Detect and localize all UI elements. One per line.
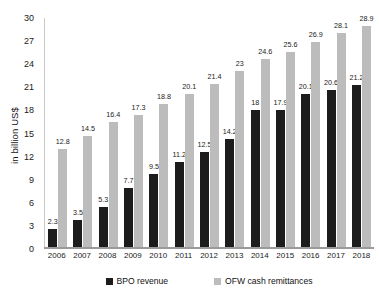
bar-value-label: 3.5 (73, 209, 83, 216)
bar-group: 2.312.8 (45, 18, 70, 247)
y-axis-tick: 18 (0, 106, 34, 115)
bar-value-label: 14.5 (81, 125, 95, 132)
y-axis-tick: 27 (0, 37, 34, 46)
y-axis-tick: 24 (0, 60, 34, 69)
bar-value-label: 18 (251, 99, 259, 106)
y-axis-tick: 30 (0, 14, 34, 23)
bar-bpo-revenue[interactable]: 3.5 (73, 220, 82, 247)
bar-value-label: 28.1 (334, 22, 348, 29)
x-axis-tick: 2007 (69, 252, 94, 260)
chart-legend: BPO revenueOFW cash remittances (44, 277, 374, 286)
bar-value-label: 24.6 (258, 48, 272, 55)
bar-bpo-revenue[interactable]: 18 (251, 110, 260, 247)
bar-value-label: 21.4 (208, 73, 222, 80)
plot-area: 2.312.83.514.55.316.47.717.39.518.811.22… (44, 18, 374, 249)
y-axis-tick: 21 (0, 83, 34, 92)
x-axis-tick: 2016 (298, 252, 323, 260)
bar-value-label: 26.9 (309, 31, 323, 38)
bar-ofw-remittances[interactable]: 23 (235, 71, 244, 247)
bar-value-label: 2.3 (48, 218, 58, 225)
bar-chart: in billion US$ 036912151821242730 2.312.… (0, 0, 379, 300)
legend-item-ofw-remittances[interactable]: OFW cash remittances (214, 277, 312, 286)
bar-bpo-revenue[interactable]: 17.9 (276, 110, 285, 247)
legend-item-bpo-revenue[interactable]: BPO revenue (106, 277, 169, 286)
bar-group: 14.223 (222, 18, 247, 247)
bar-ofw-remittances[interactable]: 17.3 (134, 115, 143, 247)
bar-value-label: 17.3 (132, 104, 146, 111)
y-axis-tick: 3 (0, 221, 34, 230)
x-axis-tick: 2013 (222, 252, 247, 260)
x-axis-tick: 2009 (120, 252, 145, 260)
bar-group: 3.514.5 (70, 18, 95, 247)
bar-bpo-revenue[interactable]: 14.2 (225, 139, 234, 247)
legend-swatch-icon (214, 278, 221, 285)
bar-value-label: 23 (236, 60, 244, 67)
bar-ofw-remittances[interactable]: 12.8 (58, 149, 67, 247)
y-axis-tick: 15 (0, 129, 34, 138)
bar-value-label: 18.8 (157, 93, 171, 100)
x-axis-tick-labels: 2006200720082009201020112012201320142015… (44, 252, 374, 260)
bar-ofw-remittances[interactable]: 28.1 (337, 33, 346, 247)
bar-value-label: 5.3 (98, 196, 108, 203)
x-axis-tick: 2011 (171, 252, 196, 260)
bar-bpo-revenue[interactable]: 11.2 (175, 162, 184, 247)
y-axis-tick: 12 (0, 152, 34, 161)
x-axis-tick: 2012 (196, 252, 221, 260)
bar-group: 7.717.3 (121, 18, 146, 247)
bar-group: 9.518.8 (146, 18, 171, 247)
x-axis-tick: 2010 (146, 252, 171, 260)
y-axis-tick: 6 (0, 198, 34, 207)
bar-bpo-revenue[interactable]: 21.2 (352, 85, 361, 247)
bar-ofw-remittances[interactable]: 18.8 (159, 104, 168, 248)
bar-value-label: 25.6 (283, 41, 297, 48)
bar-bpo-revenue[interactable]: 9.5 (149, 174, 158, 247)
bar-bpo-revenue[interactable]: 20.1 (301, 94, 310, 247)
bar-group: 1824.6 (248, 18, 273, 247)
bar-bpo-revenue[interactable]: 5.3 (99, 207, 108, 247)
legend-swatch-icon (106, 278, 113, 285)
bar-value-label: 9.5 (149, 163, 159, 170)
bar-ofw-remittances[interactable]: 26.9 (311, 42, 320, 247)
x-axis-line (44, 247, 374, 249)
x-axis-tick: 2008 (95, 252, 120, 260)
legend-label: OFW cash remittances (225, 277, 312, 286)
bar-bpo-revenue[interactable]: 12.5 (200, 152, 209, 247)
bar-groups: 2.312.83.514.55.316.47.717.39.518.811.22… (45, 18, 374, 247)
bar-ofw-remittances[interactable]: 28.9 (362, 26, 371, 247)
x-axis-tick: 2018 (349, 252, 374, 260)
bar-group: 12.521.4 (197, 18, 222, 247)
bar-bpo-revenue[interactable]: 20.6 (327, 90, 336, 247)
bar-value-label: 16.4 (106, 111, 120, 118)
y-axis-tick-labels: 036912151821242730 (0, 18, 40, 249)
bar-ofw-remittances[interactable]: 25.6 (286, 52, 295, 247)
bar-group: 21.228.9 (349, 18, 374, 247)
bar-group: 17.925.6 (273, 18, 298, 247)
y-axis-tick: 0 (0, 245, 34, 254)
bar-group: 20.628.1 (323, 18, 348, 247)
bar-group: 11.220.1 (172, 18, 197, 247)
legend-label: BPO revenue (117, 277, 169, 286)
bar-value-label: 12.8 (56, 138, 70, 145)
bar-ofw-remittances[interactable]: 21.4 (210, 84, 219, 247)
bar-group: 5.316.4 (96, 18, 121, 247)
bar-value-label: 28.9 (359, 15, 373, 22)
bar-ofw-remittances[interactable]: 20.1 (185, 94, 194, 247)
bar-ofw-remittances[interactable]: 16.4 (109, 122, 118, 247)
bar-ofw-remittances[interactable]: 14.5 (83, 136, 92, 247)
bar-value-label: 20.1 (182, 83, 196, 90)
x-axis-tick: 2006 (44, 252, 69, 260)
bar-group: 20.126.9 (298, 18, 323, 247)
bar-bpo-revenue[interactable]: 7.7 (124, 188, 133, 247)
x-axis-tick: 2015 (273, 252, 298, 260)
x-axis-tick: 2017 (323, 252, 348, 260)
bar-value-label: 7.7 (124, 177, 134, 184)
y-axis-tick: 9 (0, 175, 34, 184)
bar-ofw-remittances[interactable]: 24.6 (261, 59, 270, 247)
x-axis-tick: 2014 (247, 252, 272, 260)
bar-bpo-revenue[interactable]: 2.3 (48, 229, 57, 247)
